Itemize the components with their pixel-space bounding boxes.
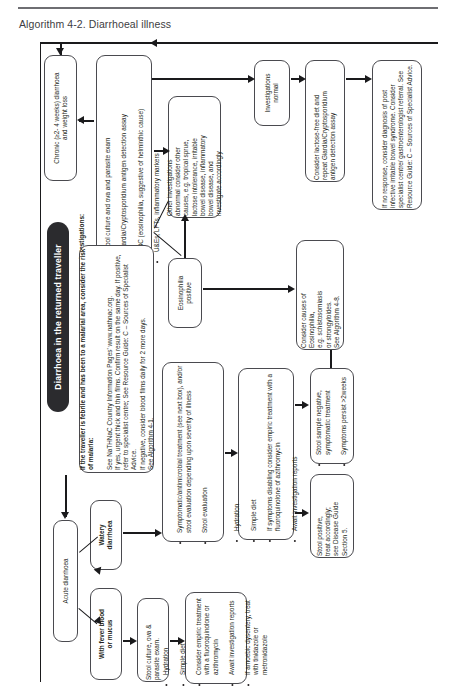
arrow-line-eos-up bbox=[184, 218, 186, 258]
arrow-head-inv-to-other bbox=[163, 147, 170, 155]
list-item: Symptoms persist >2weeks bbox=[340, 370, 348, 455]
list-item: Symptomatic/antimicrobial treatment (see… bbox=[177, 364, 193, 533]
arrow-head-inv-to-chronic bbox=[77, 116, 84, 124]
arrow-head-lactose-to-noresp bbox=[365, 75, 372, 83]
frame-return-line bbox=[40, 42, 438, 44]
node-chronic-label: Chronic (≥2- 4 weeks) diarrhoea and weig… bbox=[52, 56, 68, 180]
list-item: Giardia/Cryptosporidium antigen detectio… bbox=[120, 57, 128, 252]
node-symptomatic[interactable]: Symptomatic/antimicrobial treatment (see… bbox=[162, 362, 224, 542]
node-hydration-right[interactable]: Hydration Simple diet If symptoms disabl… bbox=[238, 368, 294, 540]
node-fever-blood-mucus[interactable]: With fever blood or mucus bbox=[90, 588, 122, 680]
arrow-line-watery-to-symptomatic bbox=[123, 532, 159, 534]
list-item: Hydration bbox=[163, 594, 171, 675]
node-malaria-text: If the traveller is febrile and has been… bbox=[70, 248, 162, 470]
node-malaria-heading: If the traveller is febrile and has been… bbox=[79, 249, 94, 470]
list-item: Stool evaluation bbox=[201, 364, 209, 533]
banner-label: Diarrhoea in the returned traveller bbox=[53, 244, 63, 390]
node-other-investigations-label: Other investigations abnormal consider o… bbox=[166, 98, 223, 216]
node-eosinophilia-causes-label: Consider causes of Eosinophilia, e.g. sc… bbox=[300, 242, 341, 348]
arrow-head-chronic bbox=[56, 48, 64, 55]
arrow-line-neg-up bbox=[330, 350, 332, 368]
node-other-investigations[interactable]: Other investigations abnormal consider o… bbox=[168, 96, 221, 218]
list-item: If symptoms disabling consider empiric t… bbox=[266, 370, 282, 531]
list-item: Await investigation reports bbox=[291, 370, 299, 531]
banner-title: Diarrhoea in the returned traveller bbox=[47, 222, 69, 412]
node-investigations-normal-label: Investigations normal bbox=[264, 62, 280, 124]
node-acute-diarrhoea[interactable]: Acute diarrhoea bbox=[53, 520, 78, 642]
list-item: FBC (eosinophilia, suggestive of helmint… bbox=[137, 57, 145, 252]
node-watery-label: Watery diarrhoea bbox=[98, 502, 114, 568]
arrow-head-fever-to-stool bbox=[130, 637, 137, 645]
node-watery-diarrhoea[interactable]: Watery diarrhoea bbox=[90, 500, 122, 570]
node-fever-blood-label: With fever blood or mucus bbox=[98, 590, 114, 678]
frame-return-arrow bbox=[150, 39, 157, 47]
node-malaria-body: See NaTHNaC Country Information Pages' w… bbox=[105, 248, 154, 470]
node-malaria[interactable]: If the traveller is febrile and has been… bbox=[79, 245, 154, 473]
arrow-head-malaria-to-acute bbox=[61, 512, 69, 519]
list-item: Await investigation reports bbox=[228, 594, 236, 675]
flowchart-canvas: Chronic (≥2- 4 weeks) diarrhoea and weig… bbox=[0, 0, 450, 694]
arrow-line-malaria-to-acute bbox=[65, 475, 67, 517]
arrow-head-symp-to-hyd bbox=[231, 449, 238, 457]
node-hydration-bottom-text: Hydration Simple diet Consider empiric t… bbox=[146, 594, 285, 682]
list-item: Stool culture and ova and parasite exam bbox=[104, 57, 112, 252]
arrow-head-hyd-to-pos bbox=[302, 509, 309, 517]
node-stool-negative[interactable]: Stool sample negative, symptomatic treat… bbox=[310, 368, 354, 464]
arrow-line-other-to-normal bbox=[152, 78, 252, 80]
node-stool-positive-label: Stool positive, treat accordingly; see D… bbox=[316, 476, 349, 556]
list-item: Simple diet bbox=[179, 594, 187, 675]
arrow-head-other-to-normal bbox=[248, 75, 255, 83]
node-stool-positive[interactable]: Stool positive, treat accordingly; see D… bbox=[310, 474, 354, 558]
node-eosinophilia-positive[interactable]: Eosinophilia positive bbox=[168, 258, 202, 328]
list-item: Consider empiric treatment with a fluoro… bbox=[196, 594, 221, 675]
node-lactose-free-label: Consider lactose-free diet and repeat Gi… bbox=[313, 62, 338, 180]
arrow-head-eos-up bbox=[181, 214, 189, 221]
node-no-response-label: If no response, consider diagnosis of po… bbox=[381, 62, 414, 208]
list-item: Stool sample negative, symptomatic treat… bbox=[316, 370, 332, 455]
node-stool-negative-text: Stool sample negative, symptomatic treat… bbox=[299, 370, 365, 462]
list-item: Simple diet bbox=[250, 370, 258, 531]
node-investigations-normal[interactable]: Investigations normal bbox=[254, 60, 290, 126]
list-item: If amoebic dysentery, treat with tinidaz… bbox=[245, 594, 270, 675]
node-eosinophilia-positive-label: Eosinophilia positive bbox=[177, 260, 193, 326]
arrow-head-hyd-to-neg bbox=[302, 401, 309, 409]
node-acute-label: Acute diarrhoea bbox=[61, 522, 69, 640]
arrow-head-normal-to-lactose bbox=[299, 75, 306, 83]
node-hydration-bottom[interactable]: Hydration Simple diet Consider empiric t… bbox=[185, 592, 247, 684]
node-investigations-text: Investigations: Stool culture and ova an… bbox=[70, 57, 177, 259]
node-investigations[interactable]: Investigations: Stool culture and ova an… bbox=[96, 55, 152, 260]
arrow-head-eos-to-causes bbox=[288, 285, 295, 293]
node-lactose-free[interactable]: Consider lactose-free diet and repeat Gi… bbox=[305, 60, 345, 182]
arrow-line-eos-to-causes bbox=[203, 288, 291, 290]
arrow-head-stool-to-hydration bbox=[178, 637, 185, 645]
node-no-response[interactable]: If no response, consider diagnosis of po… bbox=[372, 60, 422, 210]
arrow-head-watery-to-symptomatic bbox=[155, 529, 162, 537]
node-eosinophilia-causes[interactable]: Consider causes of Eosinophilia, e.g. sc… bbox=[296, 240, 344, 350]
